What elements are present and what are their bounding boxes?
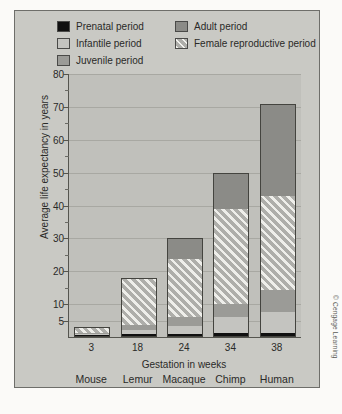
bar-segment-repro bbox=[75, 328, 109, 333]
x-axis-species-label: Chimp bbox=[215, 373, 245, 385]
y-axis-tick bbox=[63, 206, 69, 207]
bar-segment-juvenile bbox=[75, 333, 109, 334]
bar-segment-adult bbox=[214, 174, 248, 210]
x-axis-gestation-label: 38 bbox=[271, 342, 282, 353]
copyright-credit: © Cengage Learning bbox=[332, 295, 339, 359]
bar-segment-repro bbox=[214, 209, 248, 303]
bar-segment-prenatal bbox=[168, 334, 202, 336]
bar-segment-juvenile bbox=[168, 317, 202, 327]
bar-segment-adult bbox=[168, 239, 202, 258]
y-axis-tick bbox=[63, 74, 69, 75]
y-axis-minor-tick bbox=[65, 255, 69, 256]
bar-segment-juvenile bbox=[214, 304, 248, 317]
bar-mouse[interactable] bbox=[74, 327, 110, 337]
bar-segment-infantile bbox=[168, 326, 202, 334]
y-axis-tick bbox=[63, 238, 69, 239]
bar-segment-juvenile bbox=[122, 325, 156, 330]
bar-segment-infantile bbox=[261, 312, 295, 333]
x-axis-gestation-label: 3 bbox=[88, 342, 94, 353]
x-axis-gestation-label: 34 bbox=[225, 342, 236, 353]
y-axis-minor-tick bbox=[65, 156, 69, 157]
y-axis-tick bbox=[63, 140, 69, 141]
plot-area bbox=[68, 74, 301, 338]
y-axis-minor-tick bbox=[65, 123, 69, 124]
bar-lemur[interactable] bbox=[121, 278, 157, 337]
x-axis-gestation-label: 24 bbox=[178, 342, 189, 353]
bar-segment-prenatal bbox=[214, 333, 248, 336]
plot-wrapper: Average life expectancy in years 5102030… bbox=[15, 11, 321, 389]
bar-segment-infantile bbox=[75, 334, 109, 335]
bar-segment-juvenile bbox=[261, 290, 295, 312]
bar-segment-infantile bbox=[122, 330, 156, 335]
x-axis-species-label: Human bbox=[260, 373, 294, 385]
bar-segment-repro bbox=[168, 259, 202, 317]
y-axis-tick bbox=[63, 107, 69, 108]
x-axis-title: Gestation in weeks bbox=[68, 359, 300, 370]
x-axis-species-label: Macaque bbox=[162, 373, 205, 385]
gridline bbox=[69, 74, 301, 75]
figure-panel: Prenatal period Infantile period Juvenil… bbox=[14, 10, 320, 388]
bar-segment-infantile bbox=[214, 317, 248, 334]
y-axis-tick bbox=[63, 321, 69, 322]
x-axis-gestation-label: 18 bbox=[132, 342, 143, 353]
y-axis-minor-tick bbox=[65, 222, 69, 223]
bar-segment-prenatal bbox=[261, 333, 295, 336]
y-axis-tick bbox=[63, 304, 69, 305]
y-axis-tick-labels: 51020304050607080 bbox=[34, 74, 64, 337]
x-axis-species-label: Lemur bbox=[123, 373, 153, 385]
bar-segment-repro bbox=[122, 279, 156, 325]
bar-segment-prenatal bbox=[122, 334, 156, 336]
bar-human[interactable] bbox=[260, 104, 296, 337]
bar-chimp[interactable] bbox=[213, 173, 249, 337]
bar-segment-repro bbox=[261, 196, 295, 291]
bar-macaque[interactable] bbox=[167, 238, 203, 337]
y-axis-minor-tick bbox=[65, 288, 69, 289]
x-axis-species-label: Mouse bbox=[75, 373, 107, 385]
y-axis-tick bbox=[63, 173, 69, 174]
bar-segment-adult bbox=[261, 105, 295, 196]
bar-segment-prenatal bbox=[75, 335, 109, 336]
y-axis-minor-tick bbox=[65, 90, 69, 91]
y-axis-minor-tick bbox=[65, 189, 69, 190]
y-axis-tick bbox=[63, 271, 69, 272]
